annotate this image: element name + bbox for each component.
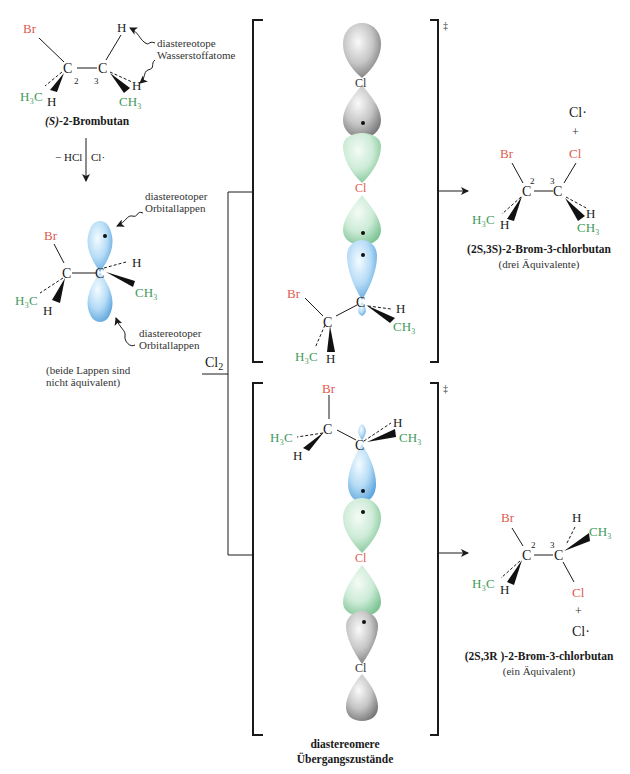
locant-3: 3: [94, 76, 99, 86]
atom-c2: C: [522, 184, 531, 199]
locant-2: 2: [531, 540, 536, 550]
atom-c3: C: [98, 61, 107, 76]
electron-dot: [361, 253, 365, 257]
annotation-bottom-line-2: Orbitallappen: [139, 339, 200, 351]
locant-3: 3: [550, 176, 555, 186]
orbital-lobe-upper: [88, 221, 113, 272]
bracket-left: [253, 383, 263, 735]
annotation-line-1: diastereotope: [157, 37, 216, 49]
atom-h-c2: H: [326, 351, 335, 366]
annotation-bottom-line-1: diastereotoper: [139, 327, 202, 339]
compound-name: (2S,3R )-2-Brom-3-chlorbutan: [465, 650, 614, 663]
product-2s3s: Cl· + Br Cl C 2 C 3 H₃C H H CH₃ (2S,3S)-…: [467, 105, 611, 271]
ts-caption-line-2: Übergangszustände: [297, 752, 393, 766]
atom-br: Br: [322, 381, 336, 396]
reactant-s-2-brombutan: Br C 2 C 3 H H₃C H H CH₃ diastereotope W…: [20, 20, 235, 128]
atom-h-c2: H: [43, 303, 52, 318]
step-label-cl-radical: Cl·: [91, 151, 105, 163]
atom-h-c3: H: [396, 301, 405, 316]
atom-br: Br: [501, 510, 515, 525]
atom-c3: C: [553, 184, 562, 199]
bracket-right: [430, 20, 438, 362]
atom-h3c: H₃C: [472, 212, 495, 227]
atom-h-top: H: [117, 20, 126, 35]
radical-intermediate: Br C C H CH₃ H₃C H diastereotoper Orbita…: [15, 190, 208, 389]
atom-cl-lower: Cl: [355, 661, 367, 675]
atom-ch3: CH₃: [399, 430, 422, 445]
locant-2: 2: [74, 76, 79, 86]
atom-br: Br: [500, 146, 514, 161]
equivalents-note: (ein Äquivalent): [503, 665, 576, 678]
atom-h3c: H₃C: [472, 576, 495, 591]
double-dagger: ‡: [443, 20, 448, 31]
cl-orbital-lobe-green: [343, 565, 381, 616]
cl-orbital-lobe: [343, 23, 381, 78]
transition-state-bottom: ‡ Cl Cl Br C C H₃C H H CH₃: [253, 381, 448, 735]
ts-caption-line-1: diastereomere: [310, 738, 379, 750]
atom-h3c: H₃C: [15, 293, 38, 308]
unpaired-electron-dot: [103, 234, 107, 238]
atom-c3: C: [356, 295, 365, 310]
step-arrow-hydrogen-abstraction: − HCl Cl·: [55, 138, 105, 181]
step-label-minus-hcl: − HCl: [55, 151, 82, 163]
product-2s3r: Br C 2 C 3 H CH₃ H₃C H Cl + Cl· (2S,3R )…: [465, 510, 614, 678]
atom-c2: C: [63, 61, 72, 76]
equivalents-note: (drei Äquivalente): [499, 258, 580, 271]
compound-name: (2S,3S)-2-Brom-3-chlorbutan: [467, 243, 611, 256]
atom-h-c3: H: [572, 510, 581, 525]
atom-h3c: H₃C: [270, 430, 293, 445]
electron-dot: [361, 231, 365, 235]
atom-c2: C: [62, 266, 71, 281]
atom-ch3: CH₃: [577, 220, 600, 235]
atom-c3: C: [554, 548, 563, 563]
electron-dot: [361, 489, 365, 493]
locant-2: 2: [530, 176, 535, 186]
locant-3: 3: [550, 540, 555, 550]
atom-h-c2: H: [293, 448, 302, 463]
electron-dot: [361, 510, 365, 514]
atom-cl-upper: Cl: [355, 551, 367, 565]
annotation-top-line-1: diastereotoper: [145, 190, 208, 202]
cl-orbital-lobe: [343, 85, 381, 138]
electron-dot: [361, 121, 365, 125]
atom-ch3: CH₃: [135, 285, 158, 300]
atom-h3c: H₃C: [20, 89, 43, 104]
carbon-orbital-lobe: [347, 240, 377, 300]
atom-h-c3: H: [132, 255, 141, 270]
atom-c3: C: [355, 438, 364, 453]
atom-h-c3: H: [132, 78, 141, 93]
atom-c2: C: [323, 315, 332, 330]
atom-h-c3: H: [393, 415, 402, 430]
cl2-branch-connector: Cl2: [202, 192, 253, 555]
double-dagger: ‡: [443, 383, 448, 394]
atom-h-c2: H: [500, 582, 509, 597]
atom-cl-lower: Cl: [355, 181, 367, 195]
reaction-scheme: Br C 2 C 3 H H₃C H H CH₃ diastereotope W…: [0, 0, 630, 774]
cl-orbital-lobe-green: [343, 498, 381, 553]
annotation-line-2: Wasserstoffatome: [157, 49, 235, 61]
atom-h-c2: H: [500, 217, 509, 232]
byproduct-cl-radical: Cl·: [572, 624, 590, 639]
byproduct-cl-radical: Cl·: [569, 105, 587, 120]
atom-ch3: CH₃: [393, 319, 416, 334]
atom-h-c2: H: [47, 94, 56, 109]
atom-ch3: CH₃: [119, 94, 142, 109]
cl-orbital-lobe-green: [343, 133, 381, 183]
bracket-right: [430, 383, 438, 735]
atom-c2: C: [323, 422, 332, 437]
note-line-2: nicht äquivalent): [46, 376, 121, 389]
atom-c3: C: [95, 266, 104, 281]
reagent-cl2: Cl2: [205, 355, 223, 372]
atom-h-c3: H: [586, 206, 595, 221]
atom-br: Br: [44, 228, 58, 243]
electron-dot: [362, 620, 366, 624]
atom-ch3: CH₃: [589, 524, 612, 539]
cl-orbital-lobe-green: [343, 195, 381, 245]
annotation-top-line-2: Orbitallappen: [145, 202, 206, 214]
bracket-left: [253, 20, 263, 362]
atom-c2: C: [522, 548, 531, 563]
plus-sign: +: [575, 604, 582, 618]
cl-orbital-lobe: [346, 674, 378, 721]
cl-orbital-lobe: [346, 611, 378, 664]
atom-cl: Cl: [569, 146, 582, 161]
